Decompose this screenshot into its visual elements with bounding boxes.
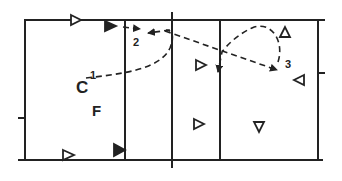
player-filled-triangle-icon xyxy=(114,144,125,156)
path-loop xyxy=(218,26,280,72)
court-diagram: C F 1 2 3 xyxy=(0,0,342,181)
label-step-2: 2 xyxy=(133,36,139,48)
player-filled-triangle-icon xyxy=(105,21,116,31)
player-triangle-icon xyxy=(71,15,81,25)
player-triangle-icon xyxy=(194,119,204,129)
label-step-3: 3 xyxy=(285,58,291,70)
path-1-curve xyxy=(86,30,173,78)
player-triangle-icon xyxy=(254,122,264,132)
player-triangle-icon xyxy=(280,27,290,37)
label-F: F xyxy=(92,102,101,119)
label-step-1: 1 xyxy=(90,69,96,81)
movement-paths xyxy=(86,26,280,78)
player-triangle-icon xyxy=(294,75,304,85)
players xyxy=(63,15,304,160)
player-triangle-icon xyxy=(63,150,74,160)
label-C: C xyxy=(76,78,88,97)
player-triangle-icon xyxy=(196,60,206,70)
court-lines xyxy=(18,12,325,168)
